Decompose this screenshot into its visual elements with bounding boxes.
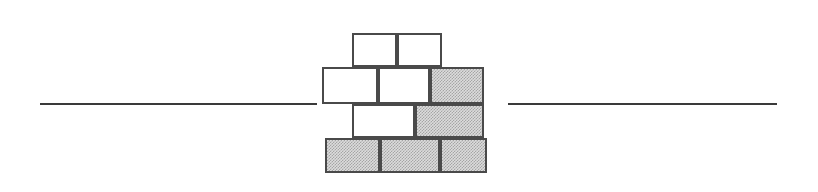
brick-r4-c3 (440, 138, 487, 173)
brick-r4-c2 (380, 138, 440, 173)
brick-r1-c2 (397, 33, 442, 67)
brick-r4-c1 (325, 138, 380, 173)
brick-r3-c2 (415, 104, 484, 138)
figure-root (0, 0, 818, 192)
brick-wall (0, 0, 818, 192)
brick-r2-c3 (430, 67, 484, 104)
brick-r1-c1 (352, 33, 397, 67)
brick-r3-c1 (352, 104, 415, 138)
brick-r2-c2 (378, 67, 430, 104)
brick-r2-c1 (322, 67, 378, 104)
